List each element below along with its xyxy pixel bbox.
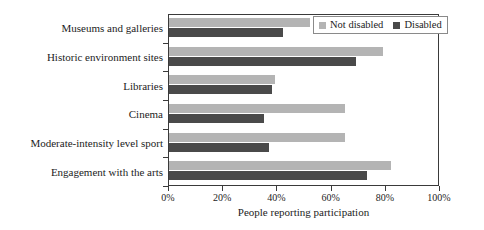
y-axis-tick [163,71,168,72]
y-axis-label: Museums and galleries [3,22,163,34]
legend-swatch-icon [393,22,400,29]
chart-legend: Not disabledDisabled [313,16,448,34]
bar-group [169,158,438,187]
plot-area [168,14,439,186]
y-axis-labels: Museums and galleriesHistoric environmen… [0,14,163,186]
bar-disabled [169,85,272,94]
bar-not-disabled [169,104,345,113]
x-axis-tick [331,186,332,191]
y-axis-tick [163,43,168,44]
x-axis-tick [222,186,223,191]
legend-label: Disabled [404,19,441,31]
bar-disabled [169,171,367,180]
y-axis-tick [163,129,168,130]
x-axis-tick-label: 0% [146,192,190,204]
legend-entry: Disabled [393,19,441,31]
legend-swatch-icon [319,22,326,29]
bar-not-disabled [169,75,275,84]
x-axis-tick-label: 80% [363,192,407,204]
y-axis-tick [163,100,168,101]
x-axis-tick [385,186,386,191]
bar-disabled [169,114,264,123]
bar-chart: Museums and galleriesHistoric environmen… [0,0,484,230]
bar-not-disabled [169,47,383,56]
bar-disabled [169,57,356,66]
bar-group [169,44,438,73]
legend-entry: Not disabled [319,19,383,31]
y-axis-label: Moderate-intensity level sport [3,137,163,149]
x-axis-tick [439,186,440,191]
x-axis-tick-label: 100% [417,192,461,204]
bar-group [169,72,438,101]
y-axis-label: Cinema [3,108,163,120]
y-axis-label: Engagement with the arts [3,166,163,178]
y-axis-tick [163,186,168,187]
bar-disabled [169,28,283,37]
x-axis-tick [276,186,277,191]
x-axis-tick-label: 20% [200,192,244,204]
y-axis-tick [163,157,168,158]
bar-disabled [169,143,269,152]
bar-group [169,101,438,130]
x-axis-tick-label: 60% [309,192,353,204]
x-axis-tick [168,186,169,191]
legend-label: Not disabled [330,19,383,31]
bar-not-disabled [169,18,310,27]
y-axis-label: Historic environment sites [3,51,163,63]
x-axis-title: People reporting participation [168,206,439,219]
x-axis-tick-label: 40% [254,192,298,204]
bar-group [169,130,438,159]
bar-not-disabled [169,161,391,170]
y-axis-label: Libraries [3,80,163,92]
bar-not-disabled [169,133,345,142]
